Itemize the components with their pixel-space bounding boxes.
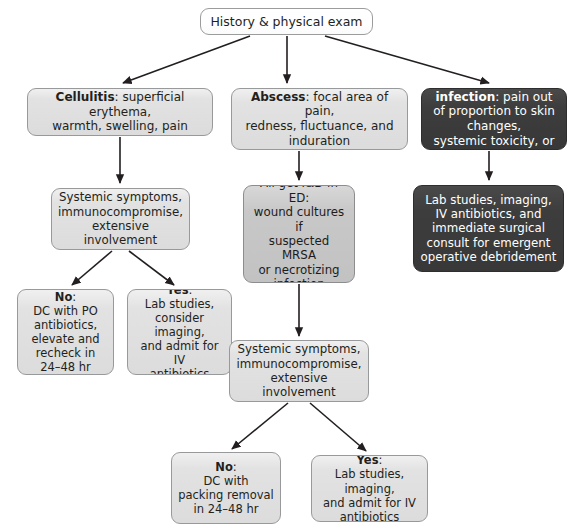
edge-cellulitis-yes	[129, 251, 174, 285]
node-cellulitis-no-lead: No	[55, 290, 73, 304]
node-cellulitis-no-text: No: DC with PO antibiotics, elevate and …	[24, 290, 107, 374]
node-cellulitis-no[interactable]: No: DC with PO antibiotics, elevate and …	[17, 289, 114, 375]
node-cellulitis-symptoms-text: Systemic symptoms, immunocompromise, ext…	[58, 190, 183, 248]
node-abscess-systemic-symptoms[interactable]: Systemic symptoms, immunocompromise, ext…	[229, 340, 369, 402]
node-cellulitis-yes-text: Yes: Lab studies, consider imaging, and …	[134, 289, 225, 375]
node-cellulitis-yes-detail: : Lab studies, consider imaging, and adm…	[140, 289, 218, 375]
node-history-physical-exam[interactable]: History & physical exam	[200, 8, 373, 35]
edge-root-cellulitis	[123, 36, 250, 83]
node-abscess-yes[interactable]: Yes: Lab studies, imaging, and admit for…	[311, 455, 428, 522]
node-root-text: History & physical exam	[207, 14, 366, 29]
node-abscess-incision-drainage[interactable]: All get I&D in ED: wound cultures if sus…	[243, 185, 355, 283]
node-abscess-no[interactable]: No: DC with packing removal in 24–48 hr	[171, 452, 281, 524]
node-necrotizing-infection[interactable]: Necrotizing infection: pain out of propo…	[421, 88, 567, 150]
node-abscess-yes-text: Yes: Lab studies, imaging, and admit for…	[318, 455, 421, 522]
node-cellulitis-yes[interactable]: Yes: Lab studies, consider imaging, and …	[127, 289, 232, 375]
node-abscess-lead: Abscess	[251, 90, 306, 104]
node-cellulitis-systemic-symptoms[interactable]: Systemic symptoms, immunocompromise, ext…	[51, 188, 190, 250]
node-abscess[interactable]: Abscess: focal area of pain, redness, fl…	[231, 88, 408, 150]
node-abscess-id-text: All get I&D in ED: wound cultures if sus…	[250, 185, 348, 283]
node-cellulitis[interactable]: Cellulitis: superficial erythema, warmth…	[27, 88, 213, 136]
edge-root-necrotizing	[325, 36, 489, 83]
node-abscess-no-text: No: DC with packing removal in 24–48 hr	[178, 460, 274, 516]
node-cellulitis-text: Cellulitis: superficial erythema, warmth…	[34, 90, 206, 134]
node-abscess-text: Abscess: focal area of pain, redness, fl…	[238, 90, 401, 149]
edge-cellulitis-no	[72, 251, 112, 285]
edge-abscess-no	[232, 403, 288, 449]
node-cellulitis-yes-lead: Yes	[167, 289, 189, 297]
node-necrotizing-text: Necrotizing infection: pain out of propo…	[428, 88, 560, 150]
node-abscess-symptoms-text: Systemic symptoms, immunocompromise, ext…	[236, 342, 362, 400]
flowchart: History & physical exam Cellulitis: supe…	[0, 0, 572, 532]
node-abscess-no-lead: No	[215, 460, 233, 474]
edge-abscess-yes	[310, 403, 366, 451]
node-cellulitis-lead: Cellulitis	[56, 90, 115, 104]
node-abscess-yes-lead: Yes	[357, 455, 379, 467]
node-necrotizing-management-text: Lab studies, imaging, IV antibiotics, an…	[420, 193, 557, 265]
node-necrotizing-management[interactable]: Lab studies, imaging, IV antibiotics, an…	[413, 185, 564, 272]
